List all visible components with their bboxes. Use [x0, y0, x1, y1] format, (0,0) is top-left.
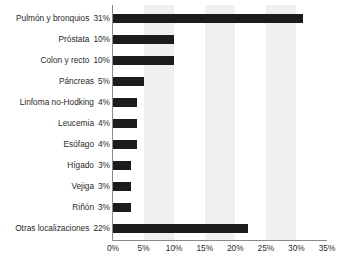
bar-row [113, 176, 327, 197]
bar [113, 56, 174, 65]
bar [113, 119, 137, 128]
category-name: Próstata [58, 34, 89, 44]
bar-row [113, 71, 327, 92]
bar-row [113, 134, 327, 155]
category-label: Leucemia4% [0, 113, 112, 134]
category-value-label: 4% [98, 139, 110, 149]
x-axis-tick-label: 25% [258, 243, 275, 253]
category-label: Próstata10% [0, 29, 112, 50]
category-label: Hígado3% [0, 155, 112, 176]
bar [113, 14, 303, 23]
category-label: Otras localizaciones22% [0, 218, 112, 239]
x-axis-line [112, 240, 327, 241]
category-name: Páncreas [59, 76, 94, 86]
bar-row [113, 155, 327, 176]
bar-series [113, 8, 327, 239]
x-axis-tick-label: 5% [138, 243, 150, 253]
bar-row [113, 29, 327, 50]
category-label: Esófago4% [0, 134, 112, 155]
x-axis-tick-label: 10% [166, 243, 183, 253]
bar-row [113, 197, 327, 218]
bar-chart: Pulmón y bronquios31%Próstata10%Colon y … [0, 0, 338, 263]
x-axis-tick-label: 20% [227, 243, 244, 253]
x-axis-tick-label: 35% [319, 243, 336, 253]
x-axis-tick-label: 0% [107, 243, 119, 253]
category-label: Páncreas5% [0, 71, 112, 92]
category-value-label: 31% [93, 13, 110, 23]
category-label: Pulmón y bronquios31% [0, 8, 112, 29]
bar-row [113, 92, 327, 113]
x-axis-tick-label: 30% [288, 243, 305, 253]
category-name: Pulmón y bronquios [16, 13, 89, 23]
bar-row [113, 8, 327, 29]
bar [113, 140, 137, 149]
y-axis-line [112, 5, 113, 241]
category-name: Esófago [64, 139, 94, 149]
category-value-label: 22% [93, 223, 110, 233]
category-name: Leucemia [58, 118, 94, 128]
bar [113, 98, 137, 107]
bar [113, 203, 131, 212]
x-axis-tick-label: 15% [196, 243, 213, 253]
category-label: Vejiga3% [0, 176, 112, 197]
category-value-label: 3% [98, 181, 110, 191]
x-axis-tick-labels: 0%5%10%15%20%25%30%35% [113, 243, 327, 257]
category-value-label: 10% [93, 34, 110, 44]
category-value-label: 4% [98, 97, 110, 107]
category-axis-labels: Pulmón y bronquios31%Próstata10%Colon y … [0, 8, 112, 239]
bar [113, 182, 131, 191]
category-label: Colon y recto10% [0, 50, 112, 71]
category-name: Linfoma no-Hodking [20, 97, 94, 107]
category-name: Colon y recto [41, 55, 90, 65]
bar-row [113, 218, 327, 239]
bar-row [113, 50, 327, 71]
category-value-label: 10% [93, 55, 110, 65]
category-value-label: 3% [98, 202, 110, 212]
category-name: Otras localizaciones [15, 223, 89, 233]
bar [113, 35, 174, 44]
bar [113, 224, 248, 233]
category-label: Riñón3% [0, 197, 112, 218]
category-label: Linfoma no-Hodking4% [0, 92, 112, 113]
category-name: Riñón [72, 202, 94, 212]
category-value-label: 4% [98, 118, 110, 128]
category-value-label: 3% [98, 160, 110, 170]
category-name: Hígado [67, 160, 94, 170]
category-value-label: 5% [98, 76, 110, 86]
bar-row [113, 113, 327, 134]
plot-area [113, 5, 327, 240]
bar [113, 77, 144, 86]
category-name: Vejiga [71, 181, 94, 191]
bar [113, 161, 131, 170]
